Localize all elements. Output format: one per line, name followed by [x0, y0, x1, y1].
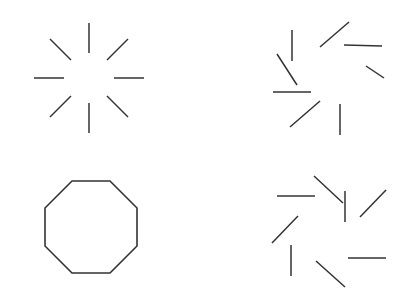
- line-segment: [344, 45, 382, 46]
- stimulus-page: [0, 0, 411, 297]
- stimulus-canvas: [0, 0, 411, 297]
